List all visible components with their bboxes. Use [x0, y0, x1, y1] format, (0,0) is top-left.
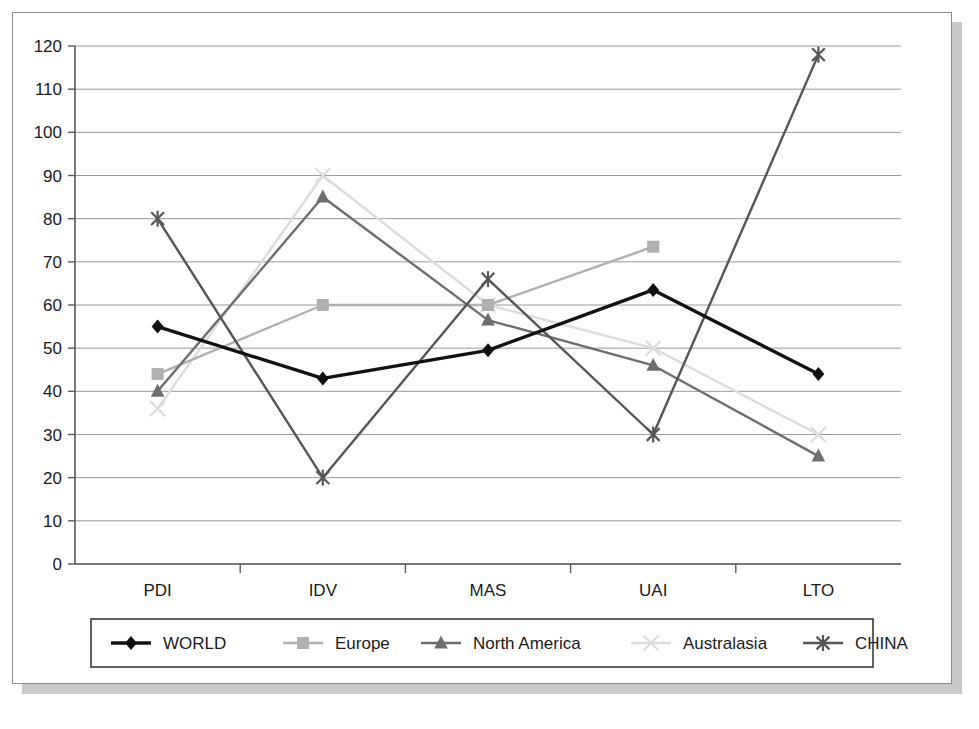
chart-legend: WORLDEuropeNorth AmericaAustralasiaCHINA — [91, 619, 909, 667]
y-tick-label: 60 — [43, 296, 62, 315]
datapoint-marker — [482, 271, 495, 287]
y-tick-label: 10 — [43, 512, 62, 531]
datapoint-marker — [812, 367, 824, 381]
x-tick-label-pdi: PDI — [143, 581, 171, 600]
data-series-group — [150, 47, 826, 486]
x-tickmarks-group — [240, 564, 736, 573]
legend-label: WORLD — [163, 634, 226, 653]
figure-plate: 0102030405060708090100110120 PDIIDVMASUA… — [12, 12, 952, 684]
datapoint-marker — [317, 299, 329, 311]
datapoint-marker — [647, 241, 659, 253]
x-tick-label-idv: IDV — [309, 581, 338, 600]
legend-label: Europe — [335, 634, 390, 653]
y-tickmarks-group — [68, 46, 75, 564]
y-tick-label: 50 — [43, 339, 62, 358]
y-tick-label: 40 — [43, 382, 62, 401]
x-tick-label-lto: LTO — [803, 581, 835, 600]
legend-label: North America — [473, 634, 581, 653]
x-tick-label-mas: MAS — [470, 581, 507, 600]
chart-container: 0102030405060708090100110120 PDIIDVMASUA… — [13, 13, 953, 685]
datapoint-marker — [152, 368, 164, 380]
y-tick-label: 30 — [43, 426, 62, 445]
y-tick-label: 20 — [43, 469, 62, 488]
y-tick-label: 70 — [43, 253, 62, 272]
datapoint-marker — [481, 313, 495, 326]
y-tick-label: 100 — [34, 123, 62, 142]
series-line — [158, 247, 654, 374]
legend-label: CHINA — [855, 634, 909, 653]
datapoint-marker — [482, 343, 494, 357]
y-tick-label: 90 — [43, 167, 62, 186]
series-line — [158, 197, 819, 456]
datapoint-marker — [647, 283, 659, 297]
line-chart: 0102030405060708090100110120 PDIIDVMASUA… — [13, 13, 953, 685]
datapoint-marker — [152, 320, 164, 334]
y-tick-label: 110 — [35, 80, 62, 99]
datapoint-marker — [812, 47, 825, 63]
x-tick-label-uai: UAI — [639, 581, 667, 600]
legend-marker — [297, 637, 309, 649]
y-tick-label: 120 — [34, 37, 62, 56]
y-axis-tick-labels: 0102030405060708090100110120 — [34, 37, 62, 574]
datapoint-marker — [150, 401, 165, 416]
series-china — [151, 47, 825, 486]
series-line — [158, 55, 819, 478]
datapoint-marker — [812, 449, 826, 462]
y-tick-label: 80 — [43, 210, 62, 229]
legend-label: Australasia — [683, 634, 768, 653]
datapoint-marker — [482, 299, 494, 311]
y-tick-label: 0 — [53, 555, 62, 574]
datapoint-marker — [317, 371, 329, 385]
page-background: 0102030405060708090100110120 PDIIDVMASUA… — [0, 0, 979, 729]
datapoint-marker — [316, 190, 330, 203]
x-axis-tick-labels: PDIIDVMASUAILTO — [143, 581, 834, 600]
